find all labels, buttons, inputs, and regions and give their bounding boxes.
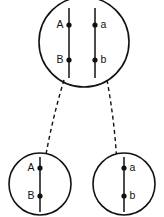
locus-dot-b [121, 193, 126, 198]
parent-cell: A B a b [39, 0, 129, 87]
locus-dot-A [37, 165, 42, 170]
parent-cell-outline [39, 0, 129, 87]
allele-label-B: B [56, 53, 63, 65]
allele-label-A: A [56, 18, 63, 30]
locus-dot-B [66, 57, 71, 62]
locus-dot-a [92, 22, 97, 27]
locus-dot-a [121, 165, 126, 170]
migration-arrows [42, 80, 119, 166]
daughter-cell-left: A B [9, 153, 71, 215]
allele-label-a: a [101, 18, 107, 30]
locus-dot-B [37, 193, 42, 198]
figure-canvas: A B a b A B [0, 0, 164, 217]
migration-arrow-right [107, 80, 117, 166]
allele-label-a: a [130, 161, 136, 173]
locus-dot-b [92, 57, 97, 62]
daughter-cell-right: a b [93, 153, 155, 215]
allele-label-B: B [27, 189, 34, 201]
allele-label-A: A [27, 161, 34, 173]
allele-label-b: b [101, 53, 107, 65]
allele-label-b: b [130, 189, 136, 201]
chromosome-segregation-figure: A B a b A B [0, 0, 164, 217]
locus-dot-A [66, 22, 71, 27]
